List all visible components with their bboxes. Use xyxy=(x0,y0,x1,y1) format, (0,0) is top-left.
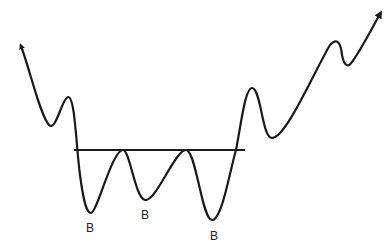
bottom-label-1: B xyxy=(86,221,94,235)
triple-bottom-diagram: B B B xyxy=(0,0,389,248)
bottom-label-2: B xyxy=(141,208,149,222)
price-line xyxy=(21,14,380,220)
bottom-label-3: B xyxy=(210,229,218,243)
